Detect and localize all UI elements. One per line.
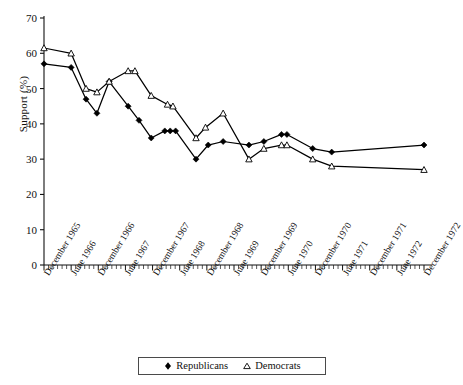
data-point-marker-filled-diamond — [68, 64, 74, 70]
y-axis-tick-label: 0 — [32, 259, 38, 271]
chart-legend: Republicans Democrats — [138, 357, 326, 375]
y-axis-tick-label: 60 — [26, 47, 38, 59]
data-point-marker-filled-diamond — [284, 131, 290, 137]
legend-label-democrats: Democrats — [255, 361, 300, 372]
data-point-marker-filled-diamond — [261, 139, 267, 145]
y-axis-tick-label: 10 — [26, 224, 38, 236]
y-axis-tick-label: 40 — [26, 118, 38, 130]
y-axis-tick-label: 20 — [26, 188, 38, 200]
chart-series-layer — [41, 45, 427, 173]
data-point-marker-filled-diamond — [246, 142, 252, 148]
legend-label-republicans: Republicans — [176, 361, 228, 372]
data-point-marker-filled-diamond — [220, 139, 226, 145]
data-point-marker-filled-diamond — [41, 61, 47, 67]
data-point-marker-filled-diamond — [310, 146, 316, 152]
open-triangle-icon — [242, 361, 252, 371]
y-axis-tick-label: 70 — [26, 12, 38, 24]
series-line-republicans — [44, 64, 424, 159]
series-line-democrats — [44, 48, 424, 170]
data-point-marker-open-triangle — [164, 101, 170, 107]
data-point-marker-open-triangle — [310, 156, 316, 162]
y-axis-tick-label: 30 — [26, 153, 38, 165]
filled-diamond-icon — [163, 361, 173, 371]
data-point-marker-filled-diamond — [421, 142, 427, 148]
data-point-marker-open-triangle — [83, 85, 89, 91]
data-point-marker-open-triangle — [220, 110, 226, 116]
data-point-marker-open-triangle — [41, 45, 47, 51]
y-axis-tick-label: 50 — [26, 83, 38, 95]
x-axis-ticks — [44, 265, 424, 271]
legend-item-democrats: Democrats — [242, 361, 300, 372]
legend-item-republicans: Republicans — [163, 361, 228, 372]
data-point-marker-filled-diamond — [329, 149, 335, 155]
